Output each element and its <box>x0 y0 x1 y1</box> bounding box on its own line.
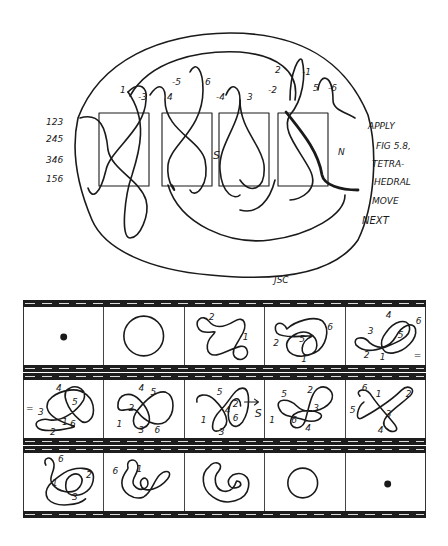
side-marker-n: N <box>338 148 345 157</box>
frame-curve: 5 2 3 1 6 4 <box>265 380 345 438</box>
frame-circle <box>265 453 345 511</box>
frame-curve: 5 4 2 6 1 3 S <box>185 380 265 438</box>
strand-label: -2 <box>268 86 277 95</box>
strand-label: -4 <box>216 93 225 102</box>
frame-curve: 4 3 5 6 2 1 = <box>346 307 425 365</box>
strand-label: 5 <box>313 84 319 93</box>
film-strip-3: 6 1 2 3 6 1 <box>23 446 426 518</box>
box-2 <box>162 113 212 186</box>
signature: JSC <box>274 276 289 285</box>
instruction-line: NEXT <box>362 216 389 226</box>
row-label: 346 <box>46 156 63 165</box>
strand-label: -1 <box>302 68 311 77</box>
box-4 <box>278 113 328 186</box>
strand-label: 2 <box>275 66 281 75</box>
frame-curve: 2 1 <box>185 307 265 365</box>
film-perforation-top <box>23 446 426 453</box>
unknot-circle <box>124 316 164 356</box>
box-3 <box>219 113 269 186</box>
dot-icon <box>384 481 391 488</box>
frame-curve: 6 1 <box>104 453 184 511</box>
row-label: 245 <box>46 135 63 144</box>
side-marker-s: S <box>213 150 220 161</box>
strand-label: -6 <box>328 84 337 93</box>
unknot-circle <box>288 468 318 498</box>
strand-label: 4 <box>167 93 173 102</box>
strand-label: 6 <box>205 78 211 87</box>
row-label: 123 <box>46 118 63 127</box>
frame-curve: = 4 3 5 1 6 2 <box>24 380 104 438</box>
instruction-line: MOVE <box>372 197 399 206</box>
frame-curve: 4 5 2 1 3 6 <box>104 380 184 438</box>
dot-icon <box>60 334 67 341</box>
film-perforation-bottom <box>23 511 426 518</box>
frame-curve: 6 1 2 3 <box>24 453 104 511</box>
instruction-line: APPLY <box>368 122 395 131</box>
frame-curve: 2 5 6 1 <box>265 307 345 365</box>
strand-label: 3 <box>247 93 253 102</box>
film-perforation-top <box>23 373 426 380</box>
instruction-line: HEDRAL <box>374 178 411 187</box>
frame-curve: 6 1 2 5 3 4 <box>346 380 425 438</box>
strand-label: -5 <box>172 78 181 87</box>
row-label: 156 <box>46 175 63 184</box>
film-strip-2: = 4 3 5 1 6 2 4 5 2 1 3 6 5 4 2 6 1 3 S <box>23 373 426 445</box>
strand-label: 1 <box>120 86 126 95</box>
frame-circle <box>104 307 184 365</box>
film-perforation-bottom <box>23 438 426 445</box>
instruction-line: FIG 5.8, <box>376 142 411 151</box>
instruction-line: TETRA- <box>372 160 404 169</box>
film-perforation-top <box>23 300 426 307</box>
frame-dot <box>24 307 104 365</box>
strand-label: -3 <box>138 93 147 102</box>
box-1 <box>99 113 149 186</box>
film-strip-1: 2 1 2 5 6 1 4 3 5 6 2 1 = <box>23 300 426 372</box>
film-perforation-bottom <box>23 365 426 372</box>
frame-spiral <box>185 453 265 511</box>
frame-dot <box>346 453 425 511</box>
outer-oval <box>75 33 374 277</box>
